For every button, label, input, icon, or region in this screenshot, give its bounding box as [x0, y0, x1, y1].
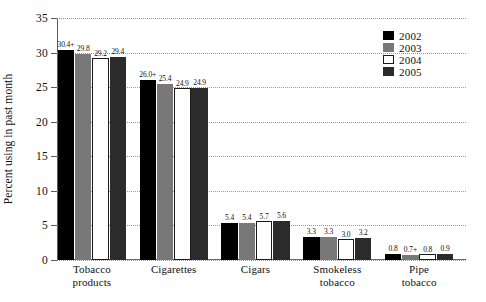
x-axis-category-label-line: tobacco — [374, 276, 464, 289]
bar-value-label: 26.0+ — [139, 70, 156, 79]
legend-swatch-icon — [383, 43, 394, 52]
bar: 0.8 — [385, 254, 402, 260]
bar-group: 26.0+25.424.924.9 — [140, 18, 208, 260]
bar: 0.7+ — [402, 255, 419, 260]
bar: 24.9 — [174, 88, 191, 260]
bar-value-label: 29.4 — [111, 47, 124, 56]
y-axis-tick-label: 25 — [36, 81, 48, 93]
bar: 0.8 — [419, 254, 436, 260]
x-axis-category-label: Smokelesstobacco — [292, 263, 382, 289]
y-axis-tick-label: 35 — [36, 12, 48, 24]
bar-chart: Percent using in past month 051015202530… — [0, 0, 486, 302]
y-axis-tick — [51, 225, 57, 226]
y-axis-tick — [51, 156, 57, 157]
x-axis-category-label: Cigarettes — [129, 263, 219, 276]
y-axis-tick — [51, 122, 57, 123]
bar: 29.8 — [75, 54, 92, 260]
x-axis-category-label: Cigars — [211, 263, 301, 276]
bar-value-label: 3.0 — [341, 230, 350, 239]
bar-value-label: 0.7+ — [404, 245, 417, 254]
legend: 2002200320042005 — [383, 30, 422, 78]
bar-value-label: 3.3 — [307, 227, 316, 236]
bar-group: 5.45.45.75.6 — [221, 18, 289, 260]
x-axis-category-label-line: Tobacco — [47, 263, 137, 276]
bar: 26.0+ — [140, 80, 157, 260]
bar-value-label: 25.4 — [159, 74, 172, 83]
legend-item[interactable]: 2004 — [383, 54, 422, 65]
bar-value-label: 30.4+ — [58, 40, 75, 49]
y-axis-tick — [51, 53, 57, 54]
legend-label: 2005 — [399, 66, 422, 78]
bar-value-label: 5.4 — [225, 213, 234, 222]
x-axis-category-label: Tobaccoproducts — [47, 263, 137, 289]
gridline — [57, 260, 466, 261]
x-axis-category-label-line: Cigars — [211, 263, 301, 276]
bar-value-label: 3.3 — [324, 227, 333, 236]
x-axis-category-label-line: Pipe — [374, 263, 464, 276]
legend-item[interactable]: 2003 — [383, 42, 422, 53]
legend-swatch-icon — [383, 55, 394, 64]
bar-value-label: 5.7 — [260, 212, 269, 221]
bar: 30.4+ — [58, 50, 75, 260]
y-axis-tick — [51, 87, 57, 88]
x-axis-category-label-line: tobacco — [292, 276, 382, 289]
x-axis-category-label-line: Smokeless — [292, 263, 382, 276]
bar: 3.0 — [338, 239, 355, 260]
bar: 5.6 — [273, 221, 290, 260]
bar-value-label: 24.9 — [176, 79, 189, 88]
bar: 3.3 — [303, 237, 320, 260]
legend-label: 2004 — [399, 54, 422, 66]
bar: 29.4 — [110, 57, 127, 260]
bar-value-label: 24.9 — [193, 78, 206, 87]
y-axis-tick — [51, 260, 57, 261]
bar-group: 3.33.33.03.2 — [303, 18, 371, 260]
bar: 5.7 — [256, 221, 273, 260]
x-axis-category-label-line: products — [47, 276, 137, 289]
bar-group: 30.4+29.829.229.4 — [58, 18, 126, 260]
bar: 29.2 — [92, 58, 109, 260]
bar: 25.4 — [157, 84, 174, 260]
y-axis-tick-label: 10 — [36, 185, 48, 197]
bar: 3.2 — [355, 238, 372, 260]
bar-value-label: 5.6 — [277, 211, 286, 220]
legend-item[interactable]: 2002 — [383, 30, 422, 41]
x-axis-category-label: Pipetobacco — [374, 263, 464, 289]
bar: 5.4 — [221, 223, 238, 260]
bar: 3.3 — [320, 237, 337, 260]
legend-label: 2002 — [399, 30, 422, 42]
bar: 24.9 — [191, 88, 208, 260]
y-axis-tick-label: 30 — [36, 47, 48, 59]
legend-item[interactable]: 2005 — [383, 66, 422, 77]
bar-value-label: 29.8 — [77, 44, 90, 53]
bar-value-label: 29.2 — [94, 49, 107, 58]
x-axis-category-label-line: Cigarettes — [129, 263, 219, 276]
bar-value-label: 0.9 — [440, 244, 449, 253]
bar-value-label: 5.4 — [242, 213, 251, 222]
bar-value-label: 3.2 — [359, 228, 368, 237]
bar-value-label: 0.8 — [389, 244, 398, 253]
bar: 5.4 — [239, 223, 256, 260]
bar-value-label: 0.8 — [423, 245, 432, 254]
bar: 0.9 — [437, 254, 454, 260]
y-axis-title: Percent using in past month — [2, 18, 16, 260]
legend-swatch-icon — [383, 67, 394, 76]
legend-swatch-icon — [383, 31, 394, 40]
y-axis-tick — [51, 18, 57, 19]
y-axis-tick-label: 5 — [42, 219, 48, 231]
y-axis-tick-label: 20 — [36, 116, 48, 128]
legend-label: 2003 — [399, 42, 422, 54]
y-axis-tick — [51, 191, 57, 192]
y-axis-tick-label: 15 — [36, 150, 48, 162]
